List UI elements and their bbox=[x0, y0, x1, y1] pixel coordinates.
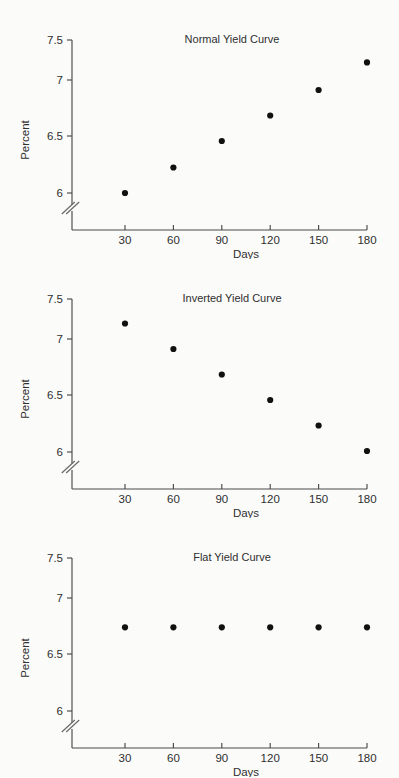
data-point bbox=[316, 87, 322, 93]
axis-break-icon bbox=[62, 461, 79, 473]
x-axis-tick-label: 120 bbox=[261, 493, 280, 505]
y-axis-label: Percent bbox=[19, 637, 31, 677]
x-axis-tick-label: 180 bbox=[357, 234, 376, 246]
y-axis-tick-label: 7 bbox=[57, 592, 63, 604]
data-point bbox=[122, 624, 128, 630]
x-axis-tick-label: 90 bbox=[215, 493, 228, 505]
y-axis-label: Percent bbox=[19, 378, 31, 418]
x-axis-tick-label: 150 bbox=[309, 234, 328, 246]
figure-page: Normal Yield Curve66.577.530609012015018… bbox=[0, 0, 399, 778]
x-axis-tick-label: 90 bbox=[215, 234, 228, 246]
data-point bbox=[219, 624, 225, 630]
scatter-plot: Inverted Yield Curve66.577.5306090120150… bbox=[0, 259, 399, 518]
data-point bbox=[122, 320, 128, 326]
x-axis-tick-label: 150 bbox=[309, 752, 328, 764]
axis-break-icon bbox=[62, 202, 79, 214]
x-axis-tick-label: 60 bbox=[167, 493, 180, 505]
data-point-series bbox=[122, 624, 370, 630]
chart-title: Flat Yield Curve bbox=[193, 551, 271, 563]
x-axis-label: Days bbox=[233, 507, 259, 518]
x-axis-label: Days bbox=[233, 766, 259, 777]
y-axis-tick-label: 6 bbox=[57, 187, 63, 199]
data-point-series bbox=[122, 59, 370, 196]
data-point bbox=[170, 346, 176, 352]
chart-title: Normal Yield Curve bbox=[185, 33, 280, 45]
data-point bbox=[316, 624, 322, 630]
y-axis-tick-label: 7.5 bbox=[47, 34, 63, 46]
x-axis-tick-label: 90 bbox=[215, 752, 228, 764]
x-axis-tick-label: 180 bbox=[357, 752, 376, 764]
data-point bbox=[267, 112, 273, 118]
scatter-plot: Flat Yield Curve66.577.5306090120150180D… bbox=[0, 518, 399, 777]
chart-panel-normal-yield-curve: Normal Yield Curve66.577.530609012015018… bbox=[0, 0, 399, 259]
chart-panel-flat-yield-curve: Flat Yield Curve66.577.5306090120150180D… bbox=[0, 518, 399, 777]
data-point bbox=[267, 397, 273, 403]
y-axis-tick-label: 6 bbox=[57, 705, 63, 717]
y-axis-label: Percent bbox=[19, 119, 31, 159]
x-axis-tick-label: 60 bbox=[167, 752, 180, 764]
data-point bbox=[364, 59, 370, 65]
chart-title: Inverted Yield Curve bbox=[182, 292, 281, 304]
y-axis-tick-label: 7 bbox=[57, 74, 63, 86]
data-point bbox=[364, 624, 370, 630]
y-axis-tick-label: 7 bbox=[57, 333, 63, 345]
y-axis-tick-label: 7.5 bbox=[47, 293, 63, 305]
data-point bbox=[170, 164, 176, 170]
x-axis-tick-label: 30 bbox=[119, 234, 132, 246]
y-axis-tick-label: 6.5 bbox=[47, 389, 63, 401]
data-point bbox=[364, 448, 370, 454]
data-point-series bbox=[122, 320, 370, 454]
data-point bbox=[267, 624, 273, 630]
y-axis-tick-label: 7.5 bbox=[47, 552, 63, 564]
x-axis-tick-label: 30 bbox=[119, 752, 132, 764]
data-point bbox=[219, 138, 225, 144]
data-point bbox=[219, 371, 225, 377]
y-axis-tick-label: 6.5 bbox=[47, 130, 63, 142]
x-axis-tick-label: 30 bbox=[119, 493, 132, 505]
data-point bbox=[170, 624, 176, 630]
y-axis-tick-label: 6.5 bbox=[47, 648, 63, 660]
scatter-plot: Normal Yield Curve66.577.530609012015018… bbox=[0, 0, 399, 259]
data-point bbox=[122, 190, 128, 196]
x-axis-tick-label: 150 bbox=[309, 493, 328, 505]
x-axis-label: Days bbox=[233, 248, 259, 259]
axis-break-icon bbox=[62, 720, 79, 732]
x-axis-tick-label: 120 bbox=[261, 752, 280, 764]
x-axis-tick-label: 60 bbox=[167, 234, 180, 246]
data-point bbox=[316, 422, 322, 428]
x-axis-tick-label: 180 bbox=[357, 493, 376, 505]
chart-panel-inverted-yield-curve: Inverted Yield Curve66.577.5306090120150… bbox=[0, 259, 399, 518]
x-axis-tick-label: 120 bbox=[261, 234, 280, 246]
y-axis-tick-label: 6 bbox=[57, 446, 63, 458]
